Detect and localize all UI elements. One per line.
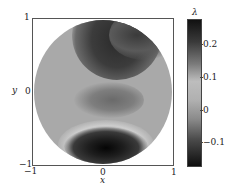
colorbar-tick-0-2: 0.2 (203, 40, 217, 49)
bottom-dark-region (64, 127, 148, 164)
y-axis-label: y (12, 85, 17, 95)
x-tick-left: −1 (24, 167, 37, 176)
colorbar-label: λ (192, 7, 198, 17)
colorbar-tick-0-1: 0.1 (203, 73, 217, 82)
plot-area (32, 18, 174, 166)
colorbar-tick-0: 0 (203, 106, 209, 115)
y-tick-top: 1 (24, 13, 30, 22)
x-tick-right: 1 (171, 168, 177, 177)
colorbar (187, 19, 202, 167)
colorbar-tick-neg-0-1: −0.1 (203, 138, 225, 147)
x-axis-label: x (100, 175, 105, 185)
center-dark-band (74, 82, 144, 118)
y-tick-mid: 0 (25, 87, 31, 96)
disk-heatmap (34, 20, 172, 164)
